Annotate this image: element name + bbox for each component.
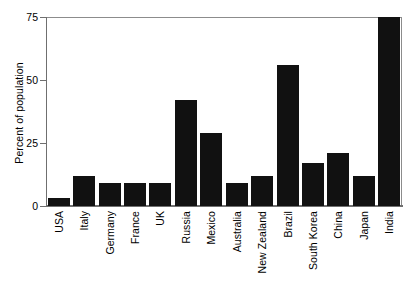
- x-axis-labels: USAItalyGermanyFranceUKRussiaMexicoAustr…: [46, 209, 402, 290]
- x-axis-label-slot: Australia: [224, 209, 249, 289]
- x-axis-tick-label: India: [384, 211, 395, 234]
- bar: [327, 153, 349, 206]
- bar: [175, 100, 197, 206]
- bars-container: [46, 17, 402, 206]
- x-axis-tick-label: USA: [53, 211, 64, 233]
- x-axis-tick-label: France: [130, 211, 141, 244]
- x-axis-label-slot: USA: [46, 209, 71, 289]
- y-axis-tick: [40, 143, 46, 144]
- x-axis-tick-label: Brazil: [282, 211, 293, 238]
- x-axis-label-slot: India: [377, 209, 402, 289]
- x-axis-tick-label: Italy: [79, 211, 90, 231]
- bar: [226, 183, 248, 206]
- y-axis-tick-label: 50: [2, 75, 38, 86]
- y-axis-labels: 0255075: [0, 0, 38, 290]
- y-axis-tick-label: 75: [2, 12, 38, 23]
- bar: [124, 183, 146, 206]
- y-axis-tick: [40, 206, 46, 207]
- x-axis-label-slot: South Korea: [301, 209, 326, 289]
- x-axis-label-slot: China: [326, 209, 351, 289]
- bar: [378, 17, 400, 206]
- x-axis-label-slot: Germany: [97, 209, 122, 289]
- x-axis-tick-label: Australia: [231, 211, 242, 252]
- x-axis-label-slot: Mexico: [199, 209, 224, 289]
- y-axis-tick-label: 25: [2, 138, 38, 149]
- x-axis-label-slot: Brazil: [275, 209, 300, 289]
- x-axis-label-slot: Japan: [351, 209, 376, 289]
- x-axis-tick-label: Germany: [104, 211, 115, 255]
- y-axis-tick: [40, 80, 46, 81]
- x-axis-tick-label: Japan: [358, 211, 369, 240]
- x-axis-tick-label: Russia: [180, 211, 191, 243]
- x-axis-tick-label: Mexico: [206, 211, 217, 245]
- bar: [251, 176, 273, 206]
- y-axis-tick-label: 0: [2, 201, 38, 212]
- bar: [302, 163, 324, 206]
- x-axis-label-slot: Russia: [173, 209, 198, 289]
- x-axis-tick-label: New Zealand: [257, 211, 268, 273]
- bar: [277, 65, 299, 206]
- x-axis-label-slot: Italy: [72, 209, 97, 289]
- bar: [48, 198, 70, 206]
- bar: [73, 176, 95, 206]
- x-axis-tick-label: UK: [155, 211, 166, 226]
- bar-chart: Percent of population 0255075 USAItalyGe…: [0, 0, 420, 290]
- bar: [149, 183, 171, 206]
- x-axis-tick-label: China: [333, 211, 344, 239]
- bar: [200, 133, 222, 206]
- x-axis-label-slot: France: [123, 209, 148, 289]
- x-axis-label-slot: New Zealand: [250, 209, 275, 289]
- bar: [99, 183, 121, 206]
- y-axis-tick: [40, 17, 46, 18]
- x-axis-tick-label: South Korea: [308, 211, 319, 270]
- bar: [353, 176, 375, 206]
- x-axis-label-slot: UK: [148, 209, 173, 289]
